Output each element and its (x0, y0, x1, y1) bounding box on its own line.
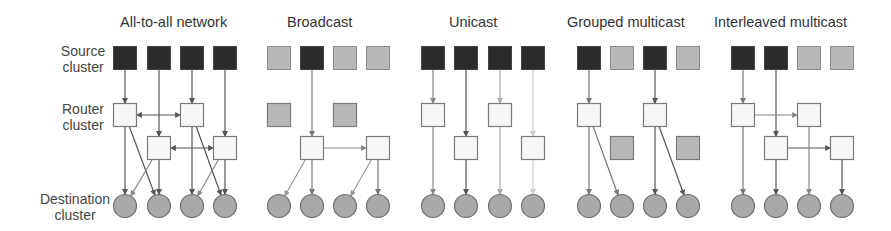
network-diagram (0, 0, 891, 231)
source-node (489, 47, 512, 70)
destination-node (831, 195, 854, 218)
router-node (489, 104, 512, 127)
destination-node (677, 195, 700, 218)
source-node (114, 47, 137, 70)
destination-node (268, 195, 291, 218)
router-node (765, 137, 788, 160)
source-node (455, 47, 478, 70)
router-node (732, 104, 755, 127)
source-node (522, 47, 545, 70)
source-node (765, 47, 788, 70)
destination-node (732, 195, 755, 218)
edges (125, 70, 225, 197)
router-node (148, 137, 171, 160)
destination-node (455, 195, 478, 218)
destination-node (765, 195, 788, 218)
router-node (334, 104, 357, 127)
router-node (644, 104, 667, 127)
source-node (732, 47, 755, 70)
router-node (677, 137, 700, 160)
router-node (422, 104, 445, 127)
source-node (301, 47, 324, 70)
source-node (831, 47, 854, 70)
router-node (455, 137, 478, 160)
edges (589, 70, 684, 196)
source-node (148, 47, 171, 70)
connection-arrow (351, 160, 372, 197)
source-node (367, 47, 390, 70)
destination-node (422, 195, 445, 218)
panel-1 (268, 47, 390, 218)
destination-node (148, 195, 171, 218)
source-node (334, 47, 357, 70)
router-node (114, 104, 137, 127)
source-node (578, 47, 601, 70)
source-node (422, 47, 445, 70)
router-node (268, 104, 291, 127)
router-node (367, 137, 390, 160)
router-node (798, 104, 821, 127)
destination-node (798, 195, 821, 218)
destination-node (334, 195, 357, 218)
source-node (611, 47, 634, 70)
source-node (268, 47, 291, 70)
destination-node (114, 195, 137, 218)
destination-node (301, 195, 324, 218)
router-node (214, 137, 237, 160)
router-node (301, 137, 324, 160)
destination-node (522, 195, 545, 218)
router-node (181, 104, 204, 127)
edges (743, 70, 842, 195)
source-node (181, 47, 204, 70)
panel-3 (578, 47, 700, 218)
destination-node (489, 195, 512, 218)
router-node (522, 137, 545, 160)
destination-node (214, 195, 237, 218)
source-node (644, 47, 667, 70)
destination-node (611, 195, 634, 218)
source-node (214, 47, 237, 70)
destination-node (367, 195, 390, 218)
panel-2 (422, 47, 545, 218)
destination-node (578, 195, 601, 218)
edges (285, 70, 378, 197)
panel-0 (114, 47, 237, 218)
router-node (578, 104, 601, 127)
destination-node (644, 195, 667, 218)
source-node (677, 47, 700, 70)
connection-arrow (285, 160, 306, 197)
router-node (611, 137, 634, 160)
source-node (798, 47, 821, 70)
destination-node (181, 195, 204, 218)
router-node (831, 137, 854, 160)
panel-4 (732, 47, 854, 218)
edges (433, 70, 533, 195)
